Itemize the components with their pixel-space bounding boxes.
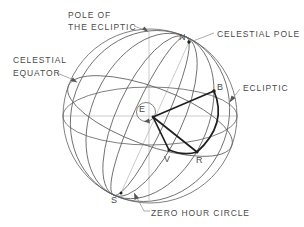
line-e-to-b [153, 91, 214, 117]
point-r-dot [196, 151, 199, 154]
label-celestial-equator-line1: CELESTIAL [13, 55, 67, 65]
label-point-r: R [196, 155, 203, 165]
point-s-dot [120, 192, 123, 195]
label-pole-of-ecliptic-line2: THE ECLIPTIC [68, 22, 136, 32]
arc-r-to-b-declination [197, 91, 218, 152]
point-n-dot [187, 40, 190, 43]
label-point-n: N [179, 32, 186, 42]
label-point-v: V [164, 154, 170, 164]
zero-hour-circle-arrow-icon [134, 193, 139, 201]
point-v-dot [168, 149, 171, 152]
label-celestial-equator-line2: EQUATOR [13, 68, 61, 78]
celestial-sphere-diagram: POLE OF THE ECLIPTIC CELESTIAL POLE CELE… [0, 0, 304, 227]
celestial-pole-leader [193, 33, 214, 41]
point-e-dot [152, 116, 155, 119]
line-e-to-r [153, 117, 197, 152]
diagram-canvas: POLE OF THE ECLIPTIC CELESTIAL POLE CELE… [0, 0, 304, 227]
rotation-arrow-icon [144, 119, 150, 124]
label-point-e: E [139, 104, 145, 114]
label-pole-of-ecliptic-line1: POLE OF [68, 10, 111, 20]
point-b-dot [212, 89, 215, 92]
label-ecliptic: ECLIPTIC [243, 83, 288, 93]
label-celestial-pole: CELESTIAL POLE [217, 29, 300, 39]
label-zero-hour-circle: ZERO HOUR CIRCLE [151, 208, 250, 218]
label-point-b: B [217, 82, 223, 92]
celestial-polar-axis-line [121, 42, 189, 193]
label-point-s: S [111, 195, 117, 205]
